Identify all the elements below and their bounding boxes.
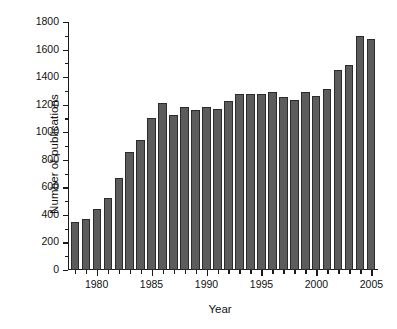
y-tick-mark — [63, 22, 68, 23]
bar — [235, 94, 243, 270]
y-minor-tick-mark — [65, 174, 68, 175]
x-axis-title: Year — [60, 303, 380, 315]
bar — [191, 110, 199, 270]
bar-chart-figure: Number of publications 02004006008001000… — [0, 0, 397, 329]
y-minor-tick-mark — [65, 63, 68, 64]
y-minor-tick-mark — [65, 118, 68, 119]
bar — [82, 219, 90, 270]
x-minor-tick-mark — [196, 270, 197, 274]
bar — [213, 109, 221, 270]
x-tick-mark-1980 — [97, 270, 98, 276]
bar — [345, 65, 353, 270]
bar — [202, 107, 210, 270]
bar — [93, 209, 101, 270]
x-minor-tick-mark — [119, 270, 120, 274]
chart-screenshot: Number of publications 02004006008001000… — [0, 0, 397, 329]
x-tick-mark-1985 — [152, 270, 153, 276]
y-minor-tick-mark — [65, 229, 68, 230]
y-minor-tick-mark — [65, 146, 68, 147]
x-tick-label: 1990 — [195, 278, 218, 290]
y-tick-mark — [63, 242, 68, 243]
y-tick-label: 1000 — [36, 125, 59, 137]
y-tick-mark — [63, 270, 68, 271]
x-minor-tick-mark — [349, 270, 350, 274]
y-tick-mark — [63, 105, 68, 106]
x-tick-mark-1995 — [261, 270, 262, 276]
x-minor-tick-mark — [272, 270, 273, 274]
y-tick-mark — [63, 132, 68, 133]
y-tick-mark — [63, 160, 68, 161]
x-minor-tick-mark — [283, 270, 284, 274]
x-minor-tick-mark — [250, 270, 251, 274]
x-tick-label: 1995 — [250, 278, 273, 290]
bar — [367, 39, 375, 270]
y-tick-mark — [63, 187, 68, 188]
x-minor-tick-mark — [174, 270, 175, 274]
bar — [257, 94, 265, 270]
bar — [71, 222, 79, 270]
x-minor-tick-mark — [338, 270, 339, 274]
x-minor-tick-mark — [141, 270, 142, 274]
bar — [158, 103, 166, 270]
bar — [290, 100, 298, 270]
x-tick-label: 1985 — [140, 278, 163, 290]
x-tick-label: 2005 — [360, 278, 383, 290]
y-tick-label: 400 — [41, 208, 59, 220]
y-tick-mark — [63, 215, 68, 216]
y-tick-label: 1600 — [36, 43, 59, 55]
bar — [224, 101, 232, 270]
x-tick-mark-2005 — [371, 270, 372, 276]
y-tick-label: 800 — [41, 153, 59, 165]
x-minor-tick-mark — [327, 270, 328, 274]
bar — [356, 36, 364, 270]
y-minor-tick-mark — [65, 201, 68, 202]
x-tick-label: 2000 — [305, 278, 328, 290]
x-minor-tick-mark — [163, 270, 164, 274]
y-minor-tick-mark — [65, 36, 68, 37]
y-tick-label: 1400 — [36, 70, 59, 82]
bar — [312, 96, 320, 270]
plot-area: 020040060080010001200140016001800 198019… — [68, 22, 378, 270]
bar — [323, 89, 331, 270]
bar — [268, 92, 276, 270]
x-minor-tick-mark — [294, 270, 295, 274]
y-minor-tick-mark — [65, 256, 68, 257]
bar — [334, 70, 342, 270]
x-minor-tick-mark — [228, 270, 229, 274]
bar — [246, 94, 254, 270]
y-tick-label: 600 — [41, 180, 59, 192]
x-minor-tick-mark — [360, 270, 361, 274]
x-minor-tick-mark — [130, 270, 131, 274]
x-tick-mark-1990 — [207, 270, 208, 276]
bar — [115, 178, 123, 270]
bar — [147, 118, 155, 270]
y-tick-mark — [63, 77, 68, 78]
y-tick-label: 1200 — [36, 98, 59, 110]
y-tick-mark — [63, 50, 68, 51]
bar — [180, 107, 188, 270]
x-minor-tick-mark — [108, 270, 109, 274]
bar — [136, 140, 144, 270]
x-tick-mark-2000 — [316, 270, 317, 276]
y-minor-tick-mark — [65, 91, 68, 92]
y-tick-label: 1800 — [36, 15, 59, 27]
bar — [104, 198, 112, 270]
bar — [169, 115, 177, 270]
y-tick-label: 0 — [53, 263, 59, 275]
bar — [125, 152, 133, 270]
x-minor-tick-mark — [86, 270, 87, 274]
x-minor-tick-mark — [75, 270, 76, 274]
x-tick-label: 1980 — [85, 278, 108, 290]
x-minor-tick-mark — [218, 270, 219, 274]
y-tick-label: 200 — [41, 235, 59, 247]
x-minor-tick-mark — [305, 270, 306, 274]
bar — [279, 97, 287, 270]
bar — [301, 92, 309, 270]
y-axis-line — [68, 22, 69, 270]
x-minor-tick-mark — [185, 270, 186, 274]
x-minor-tick-mark — [239, 270, 240, 274]
